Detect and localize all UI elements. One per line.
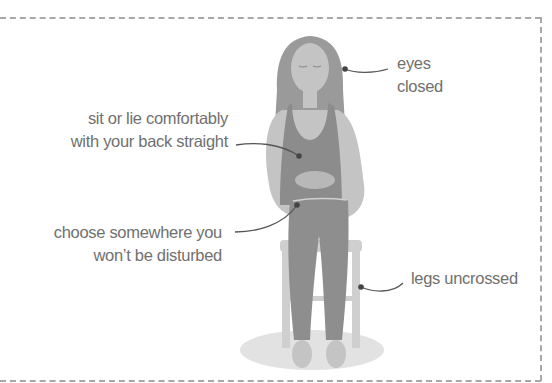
floor-shadow bbox=[240, 330, 384, 370]
label-eyes-line1: eyes bbox=[397, 52, 443, 75]
dot-eyes bbox=[342, 66, 348, 72]
right-foot bbox=[326, 340, 346, 368]
seated-person-illustration bbox=[0, 0, 552, 383]
label-legs-line1: legs uncrossed bbox=[411, 267, 518, 290]
label-place-line1: choose somewhere you bbox=[0, 221, 222, 244]
label-place-line2: won’t be disturbed bbox=[0, 244, 222, 267]
leader-eyes bbox=[345, 69, 388, 72]
leader-legs bbox=[361, 283, 403, 291]
label-eyes-line2: closed bbox=[397, 75, 443, 98]
left-foot bbox=[292, 340, 312, 368]
hands bbox=[295, 171, 335, 189]
dot-legs bbox=[358, 284, 364, 290]
face bbox=[291, 43, 329, 93]
label-back-straight: sit or lie comfortably with your back st… bbox=[0, 107, 228, 153]
label-eyes-closed: eyes closed bbox=[397, 52, 443, 98]
label-undisturbed-place: choose somewhere you won’t be disturbed bbox=[0, 221, 222, 267]
trousers bbox=[288, 200, 348, 340]
dot-back bbox=[296, 153, 302, 159]
dot-place bbox=[294, 202, 300, 208]
label-back-line2: with your back straight bbox=[0, 130, 228, 153]
label-legs-uncrossed: legs uncrossed bbox=[411, 267, 518, 290]
label-back-line1: sit or lie comfortably bbox=[0, 107, 228, 130]
